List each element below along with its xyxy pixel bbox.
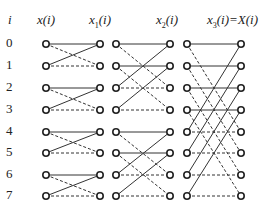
node-stage0-in-7: [43, 193, 49, 199]
node-stage2-out-4: [238, 129, 244, 135]
node-stage2-in-0: [184, 41, 190, 47]
node-stage2-out-1: [238, 63, 244, 69]
node-stage2-in-5: [184, 150, 190, 156]
node-stage1-in-2: [113, 85, 119, 91]
node-stage0-out-6: [97, 172, 103, 178]
node-stage2-in-2: [184, 85, 190, 91]
node-stage2-out-6: [238, 172, 244, 178]
node-stage0-out-2: [97, 85, 103, 91]
node-stage0-out-4: [97, 129, 103, 135]
node-stage2-in-6: [184, 172, 190, 178]
node-stage1-in-7: [113, 193, 119, 199]
node-stage2-out-3: [238, 107, 244, 113]
node-stage2-in-7: [184, 193, 190, 199]
node-stage1-out-3: [167, 107, 173, 113]
node-stage2-out-5: [238, 150, 244, 156]
node-stage1-out-1: [167, 63, 173, 69]
node-stage2-out-2: [238, 85, 244, 91]
node-stage1-in-0: [113, 41, 119, 47]
node-stage0-in-2: [43, 85, 49, 91]
node-stage1-in-5: [113, 150, 119, 156]
node-stage0-out-5: [97, 150, 103, 156]
node-stage0-out-7: [97, 193, 103, 199]
node-stage2-out-0: [238, 41, 244, 47]
node-stage0-in-5: [43, 150, 49, 156]
node-stage2-in-1: [184, 63, 190, 69]
node-stage2-out-7: [238, 193, 244, 199]
node-stage0-out-0: [97, 41, 103, 47]
node-stage0-in-0: [43, 41, 49, 47]
node-stage0-in-6: [43, 172, 49, 178]
solid-edge: [46, 88, 100, 110]
node-stage0-in-1: [43, 63, 49, 69]
node-stage0-out-1: [97, 63, 103, 69]
node-stage1-out-2: [167, 85, 173, 91]
node-stage0-in-3: [43, 107, 49, 113]
node-stage2-in-4: [184, 129, 190, 135]
node-stage0-in-4: [43, 129, 49, 135]
node-stage1-out-5: [167, 150, 173, 156]
node-stage1-out-4: [167, 129, 173, 135]
node-stage1-in-3: [113, 107, 119, 113]
node-stage0-out-3: [97, 107, 103, 113]
butterfly-diagram: [0, 0, 272, 217]
node-stage1-out-0: [167, 41, 173, 47]
node-stage1-out-7: [167, 193, 173, 199]
node-stage1-out-6: [167, 172, 173, 178]
node-stage2-in-3: [184, 107, 190, 113]
node-stage1-in-4: [113, 129, 119, 135]
solid-edge: [46, 175, 100, 196]
solid-edge: [46, 132, 100, 153]
node-stage1-in-6: [113, 172, 119, 178]
node-stage1-in-1: [113, 63, 119, 69]
